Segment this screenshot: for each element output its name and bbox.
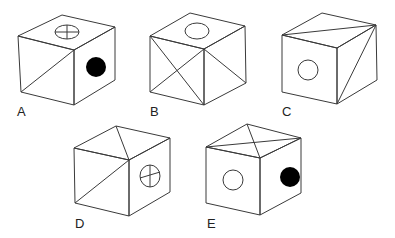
open-circle-icon: [223, 170, 243, 190]
cube-e-front-face: [206, 147, 260, 215]
option-label-d: D: [75, 216, 84, 231]
cube-a-front-diagonal: [21, 50, 74, 92]
cube-option-b[interactable]: B: [150, 13, 246, 119]
cube-d-top-diagonal: [116, 126, 129, 160]
filled-circle-icon: [86, 57, 106, 77]
cube-e-top-diagonal-2: [247, 124, 260, 158]
cube-option-a[interactable]: A: [17, 15, 115, 119]
option-label-c: C: [282, 104, 291, 119]
open-circle-icon: [298, 60, 318, 80]
cube-a-front-face: [18, 36, 74, 105]
cube-b-right-diagonal: [204, 49, 246, 83]
option-label-a: A: [17, 104, 26, 119]
crossed-circle-icon: [55, 25, 79, 39]
cube-options-diagram: A B C D: [0, 0, 395, 238]
cube-b-top-face: [150, 13, 245, 49]
cube-option-c[interactable]: C: [282, 13, 377, 119]
open-circle-icon: [185, 23, 209, 39]
cube-c-front-face: [282, 35, 337, 104]
cube-d-front-diagonal: [75, 160, 129, 203]
cube-b-front-diagonal-2: [150, 49, 204, 92]
option-label-b: B: [150, 104, 159, 119]
cube-option-e[interactable]: E: [206, 124, 301, 231]
filled-circle-icon: [280, 167, 300, 187]
crossed-circle-icon: [140, 165, 160, 187]
cube-option-d[interactable]: D: [74, 126, 170, 231]
option-label-e: E: [207, 216, 216, 231]
